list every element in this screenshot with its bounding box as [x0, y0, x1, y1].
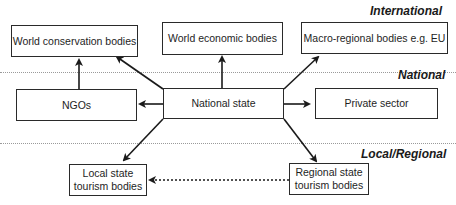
box-label: World conservation bodies: [13, 35, 137, 48]
box-label-line1: Regional state: [295, 166, 362, 179]
box-label: World economic bodies: [168, 32, 277, 45]
box-private-sector: Private sector: [315, 88, 438, 119]
box-macro-regional-bodies: Macro-regional bodies e.g. EU: [301, 22, 448, 54]
arrow-national-to-local-state: [124, 119, 163, 160]
diagram-canvas: International National Local/Regional Wo…: [0, 0, 456, 205]
box-world-conservation-bodies: World conservation bodies: [11, 25, 138, 57]
arrow-national-to-macro-regional: [284, 57, 318, 89]
box-label: NGOs: [62, 99, 91, 112]
box-local-state-tourism-bodies: Local state tourism bodies: [69, 164, 147, 196]
box-label-line1: Local state: [83, 167, 134, 180]
box-world-economic-bodies: World economic bodies: [162, 22, 283, 55]
arrow-national-to-world-conservation: [117, 57, 163, 89]
box-label: Private sector: [344, 97, 408, 110]
arrow-national-to-regional-state: [284, 119, 316, 161]
box-label-line2: tourism bodies: [74, 180, 142, 193]
box-regional-state-tourism-bodies: Regional state tourism bodies: [289, 163, 369, 195]
box-national-state: National state: [163, 88, 284, 119]
box-label-line2: tourism bodies: [295, 179, 363, 192]
box-label: Macro-regional bodies e.g. EU: [304, 32, 446, 45]
box-ngos: NGOs: [16, 89, 137, 121]
box-label: National state: [191, 97, 255, 110]
